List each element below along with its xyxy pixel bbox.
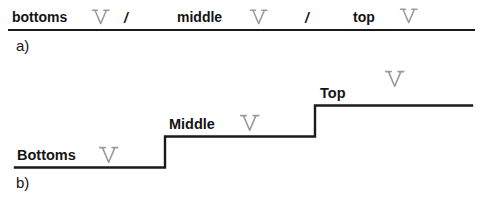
v-notch-icon — [238, 112, 262, 134]
figure-container: bottoms / middle / top a) Bot — [0, 0, 485, 206]
panel-b-step-label-bottoms: Bottoms — [17, 148, 76, 163]
panel-b-step-label-top: Top — [320, 86, 346, 101]
v-notch-icon — [383, 68, 407, 90]
panel-b-letter: b) — [16, 175, 29, 190]
panel-b-step-label-middle: Middle — [169, 117, 215, 132]
staircase-step-line — [0, 0, 485, 206]
v-notch-icon — [97, 144, 121, 166]
